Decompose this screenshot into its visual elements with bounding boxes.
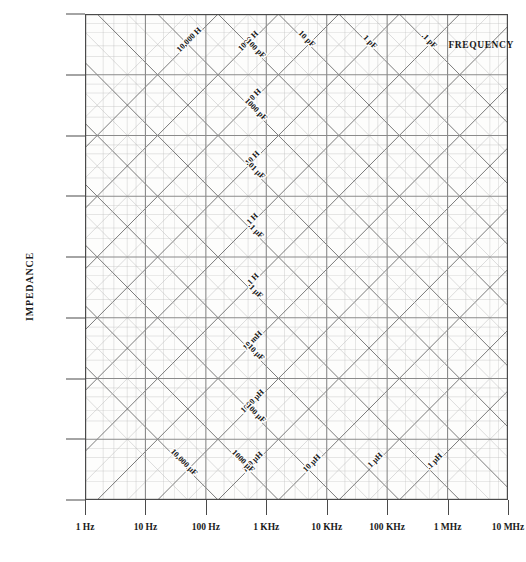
inductance-line-label: 10 μH — [301, 452, 323, 474]
capacitance-line-label: 1 μF — [247, 283, 265, 301]
inductance-line-label: .1 μH — [424, 451, 444, 471]
x-axis-tick-mark — [448, 500, 449, 515]
x-axis: 1 Hz10 Hz100 Hz1 KHz10 KHz100 KHz1 MHz10… — [0, 500, 526, 562]
gridline — [85, 14, 508, 366]
gridline — [85, 391, 508, 500]
y-axis-tick-mark — [66, 74, 85, 75]
y-axis-tick-mark — [66, 135, 85, 136]
y-axis-tick-mark — [66, 257, 85, 258]
y-axis: 10 M Ω1 M Ω100,000 Ω10,000 Ω1000 Ω100 Ω1… — [0, 0, 84, 562]
x-axis-tick-label: 100 KHz — [369, 522, 405, 532]
gridline — [85, 14, 508, 209]
capacitance-line-label: 100 μF — [244, 401, 267, 424]
plot-area: 10,000 H10,000 H1000 H1000 H100 H100 H10… — [85, 14, 508, 500]
capacitance-line-label: 1 pF — [361, 33, 378, 50]
gridline — [85, 269, 508, 500]
x-axis-tick-mark — [145, 500, 146, 515]
gridline — [85, 14, 508, 391]
x-axis-tick-mark — [206, 500, 207, 515]
gridline — [85, 366, 508, 500]
x-axis-tick-label: 1 MHz — [434, 522, 462, 532]
y-axis-title: IMPEDANCE — [24, 232, 35, 342]
gridline — [85, 14, 508, 330]
gridline — [85, 32, 508, 457]
x-axis-title: FREQUENCY — [448, 40, 514, 50]
gridline — [85, 14, 508, 427]
x-axis-tick-mark — [266, 500, 267, 515]
gridline — [85, 14, 508, 269]
gridline — [85, 209, 508, 500]
x-axis-tick-label: 10 Hz — [134, 522, 157, 532]
gridline — [85, 330, 508, 500]
y-axis-tick-mark — [66, 196, 85, 197]
x-axis-tick-mark — [508, 500, 509, 515]
gridline — [85, 14, 508, 245]
x-axis-tick-label: 100 Hz — [192, 522, 220, 532]
x-axis-tick-mark — [327, 500, 328, 515]
gridline — [85, 184, 508, 500]
gridline — [85, 14, 508, 123]
y-axis-tick-mark — [66, 317, 85, 318]
gridline — [85, 245, 508, 500]
x-axis-tick-label: 1 KHz — [253, 522, 279, 532]
inductance-line-label: 10,000 H — [175, 25, 204, 54]
y-axis-tick-mark — [66, 378, 85, 379]
gridline — [85, 123, 508, 500]
capacitance-line-label: .1 μF — [246, 221, 265, 240]
x-axis-tick-mark — [85, 500, 86, 515]
capacitance-line-label: 100 pF — [244, 37, 267, 60]
gridline — [85, 148, 508, 500]
x-axis-tick-label: 10 MHz — [492, 522, 524, 532]
inductance-line-label: 1 μH — [366, 450, 385, 469]
gridline — [85, 14, 508, 184]
impedance-frequency-nomograph: 10 M Ω1 M Ω100,000 Ω10,000 Ω1000 Ω100 Ω1… — [0, 0, 526, 562]
gridline — [85, 57, 508, 482]
gridline — [85, 14, 508, 305]
x-axis-tick-mark — [387, 500, 388, 515]
gridline — [85, 87, 508, 500]
nomograph-grid: 10,000 H10,000 H1000 H1000 H100 H100 H10… — [85, 14, 508, 500]
y-axis-tick-mark — [66, 439, 85, 440]
x-axis-tick-label: 10 KHz — [311, 522, 342, 532]
x-axis-tick-label: 1 Hz — [76, 522, 95, 532]
capacitance-line-label: 10 μF — [246, 342, 266, 362]
y-axis-tick-mark — [66, 14, 85, 15]
